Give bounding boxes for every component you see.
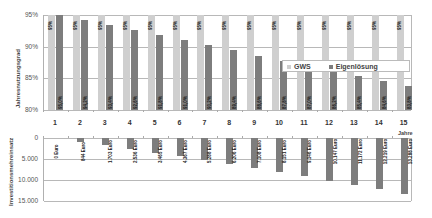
- bar-label-gws: 95%: [73, 21, 78, 30]
- bar-label-gws: 95%: [48, 21, 53, 30]
- x-tick: [168, 136, 169, 138]
- x-tick: [168, 110, 169, 112]
- x-tick: [217, 110, 218, 112]
- bar-label-eigenloesung: 93,4%: [108, 96, 113, 109]
- bar-label-eigenloesung: 92,6%: [133, 96, 138, 109]
- gridline-80: [44, 110, 411, 111]
- legend-label-gws: GWS: [294, 63, 311, 70]
- category-label: 14: [369, 119, 389, 126]
- bar-label-investment: 8.151 Euro: [282, 140, 287, 163]
- category-label: 10: [269, 119, 289, 126]
- bar-label-gws: 95%: [347, 21, 352, 30]
- bar-label-gws: 95%: [297, 21, 302, 30]
- legend-swatch-gws: [287, 65, 291, 69]
- bar-label-investment: 12.219 Euro: [383, 139, 388, 164]
- x-tick: [317, 136, 318, 138]
- category-label: 8: [219, 119, 239, 126]
- bar-label-gws: 95%: [98, 21, 103, 30]
- top-y-axis-title: Jahresnutzungsgrad: [15, 49, 21, 108]
- bar-label-investment: 9.146 Euro: [307, 140, 312, 163]
- category-label: 11: [294, 119, 314, 126]
- category-label: 3: [95, 119, 115, 126]
- bar-label-gws: 95%: [148, 21, 153, 30]
- x-tick: [68, 136, 69, 138]
- category-label: 9: [244, 119, 264, 126]
- x-tick: [267, 136, 268, 138]
- bar-label-eigenloesung: 85,4%: [357, 96, 362, 109]
- bar-label-investment: 4.367 Euro: [182, 140, 187, 163]
- legend-item-gws: GWS: [287, 63, 311, 70]
- category-label: 13: [344, 119, 364, 126]
- x-tick: [242, 110, 243, 112]
- bar-label-gws: 95%: [372, 21, 377, 30]
- legend-swatch-eigenloesung: [329, 65, 333, 69]
- x-tick: [317, 110, 318, 112]
- bar-label-gws: 95%: [322, 21, 327, 30]
- x-tick: [43, 136, 44, 138]
- bar-label-investment: 10.147 Euro: [333, 139, 338, 164]
- category-label: 2: [70, 119, 90, 126]
- bar-label-eigenloesung: 91,8%: [157, 96, 162, 109]
- category-label: 6: [170, 119, 190, 126]
- x-tick: [118, 110, 119, 112]
- bar-label-gws: 95%: [173, 21, 178, 30]
- bar-label-eigenloesung: 90,2%: [207, 96, 212, 109]
- bar-label-gws: 95%: [123, 21, 128, 30]
- category-label: 7: [194, 119, 214, 126]
- bar-investment: [376, 138, 383, 189]
- bar-label-eigenloesung: 83,8%: [406, 96, 411, 109]
- category-label: 5: [145, 119, 165, 126]
- bar-label-investment: 7.108 Euro: [257, 140, 262, 163]
- bar-label-gws: 95%: [397, 21, 402, 30]
- bar-label-eigenloesung: 95,0%: [58, 96, 63, 109]
- top-ytick-85: 85%: [8, 74, 38, 81]
- x-tick: [267, 110, 268, 112]
- x-tick: [93, 136, 94, 138]
- bar-label-investment: 2.536 Euro: [133, 140, 138, 163]
- x-tick: [118, 136, 119, 138]
- legend: GWS Eigenlösung: [282, 60, 410, 72]
- bar-label-investment: 6.206 Euro: [232, 140, 237, 163]
- bar-label-eigenloesung: 91,0%: [182, 96, 187, 109]
- x-tick: [367, 136, 368, 138]
- category-label: 4: [120, 119, 140, 126]
- gridline-15000: [44, 201, 411, 202]
- bar-investment: [326, 138, 333, 181]
- category-label: 12: [319, 119, 339, 126]
- x-axis-unit-label: Jahre: [398, 130, 413, 136]
- x-tick: [68, 110, 69, 112]
- category-label: 1: [45, 119, 65, 126]
- bar-label-gws: 95%: [247, 21, 252, 30]
- x-tick: [192, 136, 193, 138]
- bar-label-gws: 95%: [222, 21, 227, 30]
- top-ytick-95: 95%: [8, 11, 38, 18]
- bar-label-investment: 11.172 Euro: [358, 139, 363, 164]
- bar-investment: [401, 138, 408, 194]
- bar-label-investment: 844 Euro: [81, 142, 86, 161]
- bar-label-eigenloesung: 89,4%: [232, 96, 237, 109]
- top-ytick-90: 90%: [8, 43, 38, 50]
- x-tick: [217, 136, 218, 138]
- x-tick: [192, 110, 193, 112]
- x-tick: [242, 136, 243, 138]
- bar-label-gws: 95%: [272, 21, 277, 30]
- bar-label-investment: 5.288 Euro: [207, 140, 212, 163]
- bar-label-eigenloesung: 87,8%: [282, 96, 287, 109]
- legend-item-eigenloesung: Eigenlösung: [329, 63, 378, 70]
- bar-label-eigenloesung: 86,2%: [332, 96, 337, 109]
- bar-label-investment: 3.465 Euro: [157, 140, 162, 163]
- bar-label-gws: 95%: [197, 21, 202, 30]
- x-tick: [342, 136, 343, 138]
- bar-label-eigenloesung: 94,2%: [83, 96, 88, 109]
- x-tick: [143, 110, 144, 112]
- x-tick: [93, 110, 94, 112]
- bar-label-eigenloesung: 84,6%: [382, 96, 387, 109]
- x-tick: [143, 136, 144, 138]
- x-tick: [292, 110, 293, 112]
- legend-label-eigenloesung: Eigenlösung: [336, 63, 378, 70]
- bar-label-investment: 0 Euro: [54, 144, 59, 158]
- x-tick: [392, 110, 393, 112]
- x-tick: [367, 110, 368, 112]
- bottom-y-axis-title: Investitionsmehreinsatz: [8, 138, 14, 206]
- x-tick: [292, 136, 293, 138]
